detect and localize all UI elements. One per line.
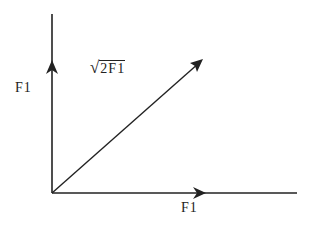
vector-diagram bbox=[0, 0, 313, 227]
resultant-label: √2F1 bbox=[90, 58, 125, 78]
sqrt-icon: √ bbox=[90, 58, 99, 77]
horizontal-force-label: F1 bbox=[181, 200, 198, 216]
vertical-force-label: F1 bbox=[15, 80, 32, 96]
resultant-vector-line bbox=[52, 63, 199, 193]
resultant-radicand: 2F1 bbox=[99, 60, 125, 76]
